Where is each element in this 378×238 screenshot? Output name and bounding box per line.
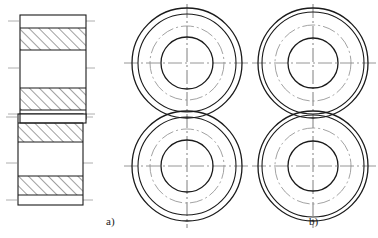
hatch-band-upper-1 <box>20 28 86 50</box>
view-b-lower-circle <box>252 111 376 221</box>
overlap-band <box>20 114 86 123</box>
hatch-band-lower-1 <box>18 123 83 142</box>
engineering-drawing-svg <box>0 0 378 238</box>
caption-a: a) <box>106 215 115 227</box>
section-view-group <box>6 15 98 205</box>
view-b-upper-circle <box>252 8 376 118</box>
view-a-group <box>124 4 250 228</box>
technical-drawing-canvas: a) b) <box>0 0 378 238</box>
caption-b: b) <box>309 215 318 227</box>
view-b-group <box>252 4 376 228</box>
hatch-band-upper-2 <box>20 88 86 110</box>
hatch-band-lower-2 <box>18 176 83 195</box>
